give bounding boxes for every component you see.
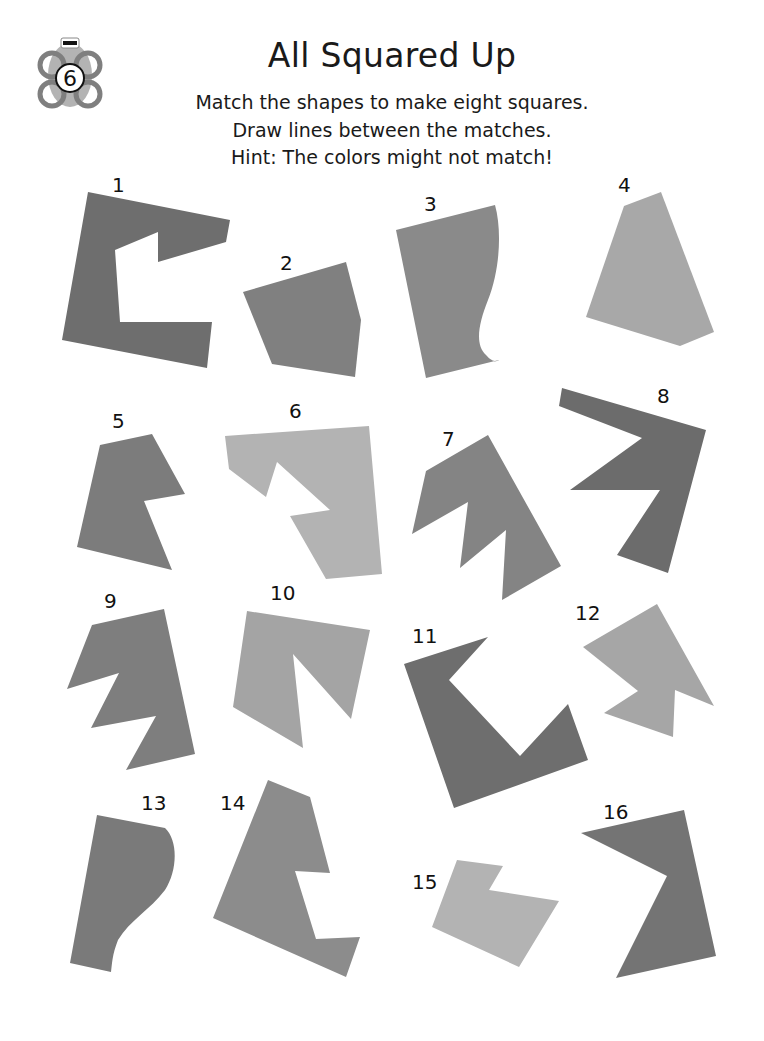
shape-9[interactable]: 9 bbox=[67, 589, 195, 770]
shape-2[interactable]: 2 bbox=[243, 251, 361, 377]
shape-16[interactable]: 16 bbox=[581, 800, 716, 978]
shape-12[interactable]: 12 bbox=[575, 601, 714, 737]
shape-label-2: 2 bbox=[280, 251, 293, 275]
shape-label-1: 1 bbox=[112, 173, 125, 197]
shape-label-13: 13 bbox=[141, 791, 166, 815]
shape-label-4: 4 bbox=[618, 173, 631, 197]
shape-1[interactable]: 1 bbox=[62, 173, 230, 368]
shape-10[interactable]: 10 bbox=[233, 581, 370, 748]
shape-3[interactable]: 3 bbox=[396, 192, 499, 378]
shape-label-14: 14 bbox=[220, 791, 245, 815]
shape-label-3: 3 bbox=[424, 192, 437, 216]
shape-label-5: 5 bbox=[112, 409, 125, 433]
shape-label-9: 9 bbox=[104, 589, 117, 613]
shape-label-11: 11 bbox=[412, 624, 437, 648]
shape-label-16: 16 bbox=[603, 800, 628, 824]
shape-6[interactable]: 6 bbox=[225, 399, 382, 579]
shape-label-8: 8 bbox=[657, 384, 670, 408]
shape-13[interactable]: 13 bbox=[70, 791, 175, 972]
shape-4[interactable]: 4 bbox=[586, 173, 714, 346]
shape-label-7: 7 bbox=[442, 427, 455, 451]
shape-14[interactable]: 14 bbox=[213, 780, 360, 977]
puzzle-board: 1 2 3 4 5 6 7 8 9 10 bbox=[0, 0, 764, 1041]
shape-label-10: 10 bbox=[270, 581, 295, 605]
shape-label-15: 15 bbox=[412, 870, 437, 894]
shape-label-6: 6 bbox=[289, 399, 302, 423]
shape-15[interactable]: 15 bbox=[412, 860, 559, 967]
shape-5[interactable]: 5 bbox=[77, 409, 185, 570]
shape-label-12: 12 bbox=[575, 601, 600, 625]
shape-11[interactable]: 11 bbox=[404, 624, 588, 808]
shape-7[interactable]: 7 bbox=[412, 427, 561, 600]
shape-8[interactable]: 8 bbox=[559, 384, 706, 573]
